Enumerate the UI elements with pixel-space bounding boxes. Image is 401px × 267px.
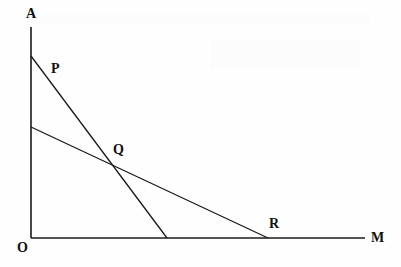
label-a: A — [26, 7, 36, 21]
steep-line-P-segment — [31, 56, 167, 238]
label-q: Q — [113, 143, 124, 157]
label-o: O — [17, 241, 28, 255]
diagram-canvas — [0, 0, 401, 267]
label-m: M — [371, 231, 384, 245]
label-p: P — [51, 62, 60, 76]
shallow-line-R-segment — [31, 127, 268, 238]
geometry-diagram: A P Q R O M — [0, 0, 401, 267]
label-r: R — [269, 217, 279, 231]
